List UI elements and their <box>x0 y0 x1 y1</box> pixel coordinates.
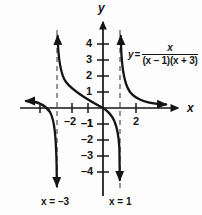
y-tick-label-neg3: –3 <box>81 150 93 161</box>
y-tick-label-2: 2 <box>86 70 92 81</box>
y-tick-label-neg2: –2 <box>81 134 93 145</box>
x-tick-label-neg1: –1 <box>81 118 93 129</box>
y-tick-label-1: 1 <box>86 86 92 97</box>
equation-equals-sign: = <box>135 50 141 60</box>
x-tick-label-neg2: –2 <box>64 116 76 127</box>
x-axis-label: x <box>187 102 194 114</box>
equation-annotation: y = x (x – 1)(x + 3) <box>128 43 198 66</box>
graph-canvas <box>0 0 202 215</box>
asymptote-label-left: x = –3 <box>41 197 69 207</box>
equation-numerator: x <box>163 43 177 54</box>
equation-denominator: (x – 1)(x + 3) <box>142 55 197 66</box>
equation-fraction: x (x – 1)(x + 3) <box>142 43 197 66</box>
curve-branch-left <box>26 101 57 186</box>
equation-lhs: y <box>128 50 134 60</box>
y-tick-label-neg4: –4 <box>81 166 93 177</box>
y-tick-label-3: 3 <box>86 54 92 65</box>
y-axis-label: y <box>98 2 105 14</box>
y-tick-label-4: 4 <box>86 38 92 49</box>
x-tick-label-2: 2 <box>133 116 139 127</box>
rational-function-figure: y x 4 3 2 1 –1 –2 –3 –4 –2 –1 2 y = x (x… <box>0 0 202 215</box>
asymptote-label-right: x = 1 <box>109 197 132 207</box>
